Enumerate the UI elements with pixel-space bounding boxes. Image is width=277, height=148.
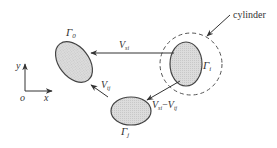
body-gamma-i: Γi [170,42,211,86]
cylinder-label: cylinder [233,9,266,20]
cylinder-pointer-arrow [207,15,230,36]
diagram-canvas: Γ0 Γi Γj Vsi Vtj Vsi−Vtj [0,0,277,148]
arrow-v-tj: Vtj [91,79,111,97]
coordinate-axes: y o x [15,60,52,103]
gamma-i-label: Γi [202,59,211,73]
cylinder-pointer: cylinder [207,9,266,36]
diagram: Γ0 Γi Γj Vsi Vtj Vsi−Vtj [0,0,277,148]
gamma-j-label: Γj [120,125,129,139]
gamma-j-ellipse [111,97,151,125]
origin-label: o [20,92,25,103]
v-tj-label: Vtj [101,79,111,91]
arrow-v-si-minus-v-tj: Vsi−Vtj [147,81,180,111]
arrow-v-si: Vsi [91,39,174,53]
v-si-label: Vsi [119,39,129,51]
x-axis-label: x [43,92,49,103]
v-si-minus-v-tj-label: Vsi−Vtj [152,99,178,111]
gamma-0-label: Γ0 [65,26,76,40]
gamma-0-ellipse [48,35,100,90]
gamma-i-ellipse [170,42,202,86]
body-gamma-j: Γj [111,97,151,139]
body-gamma-0: Γ0 [48,26,100,89]
y-axis-label: y [15,60,21,71]
